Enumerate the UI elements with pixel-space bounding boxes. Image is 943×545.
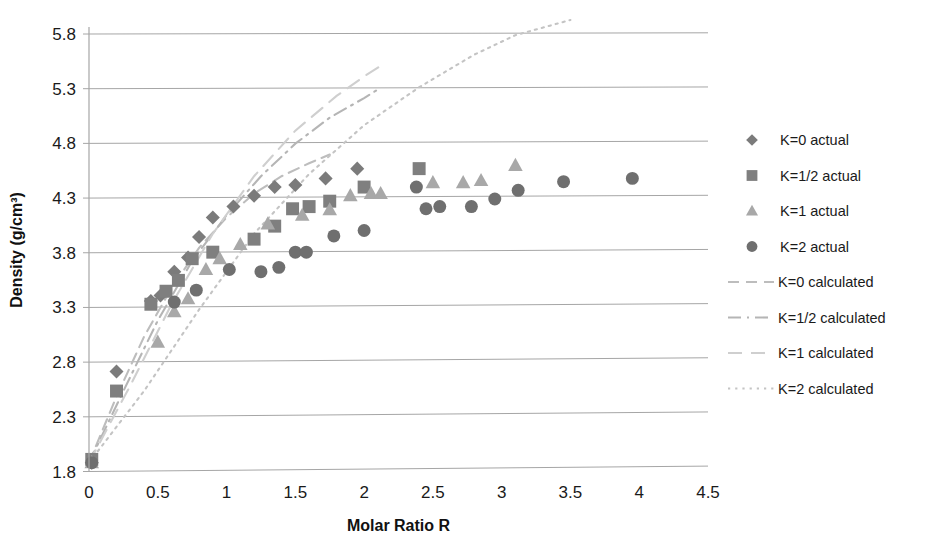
data-point-k-2-actual [85,456,98,469]
legend-item-k-2-calculated[interactable]: K=2 calculated [728,381,874,397]
gridline-y-5.8 [89,33,708,34]
gridline-y-4.3 [89,195,708,198]
data-point-k-1-2-actual [303,200,316,213]
legend-marker-square-icon [747,170,758,181]
data-point-k-2-actual [465,200,478,213]
data-point-k-1-2-actual [413,162,426,175]
gridline-y-5.3 [89,87,708,89]
y-tick-label-3.8: 3.8 [52,244,76,263]
y-tick-label-2.8: 2.8 [52,353,76,372]
x-tick-label-0.5: 0.5 [146,483,170,502]
legend-label: K=2 actual [780,239,849,255]
curve-k-1-calculated [89,63,385,462]
legend-label: K=1/2 calculated [778,310,886,326]
legend-label: K=2 calculated [778,381,874,397]
gridline-y-1.8 [89,466,708,471]
legend-item-k-1-2-actual[interactable]: K=1/2 actual [747,168,861,184]
gridline-y-4.8 [89,141,708,143]
data-point-k-2-actual [557,175,570,188]
legend-label: K=0 calculated [778,274,874,290]
y-tick-label-2.3: 2.3 [52,408,76,427]
data-point-k-0-actual [206,210,220,224]
data-point-k-1-actual [199,262,214,275]
data-point-k-1-actual [373,186,388,199]
gridline-y-2.8 [89,358,708,362]
data-point-k-0-actual [350,162,364,176]
x-tick-label-0: 0 [84,483,93,502]
legend-marker-triangle-icon [746,205,758,216]
legend-item-k-1-actual[interactable]: K=1 actual [746,203,849,219]
legend-label: K=1 actual [780,203,849,219]
legend-item-k-1-calculated[interactable]: K=1 calculated [728,345,874,361]
data-point-k-1-2-actual [144,298,157,311]
data-point-k-1-2-actual [248,233,261,246]
x-tick-label-4: 4 [634,483,643,502]
x-tick-label-4.5: 4.5 [696,483,720,502]
legend-marker-diamond-icon [746,134,758,146]
data-point-k-1-2-actual [160,285,173,298]
gridline-y-3.8 [89,249,708,252]
y-tick-label-4.8: 4.8 [52,134,76,153]
data-point-k-2-actual [358,224,371,237]
data-point-k-2-actual [272,261,285,274]
x-tick-label-1: 1 [222,483,231,502]
series-k-1-2-actual [85,162,425,466]
data-point-k-2-actual [223,263,236,276]
x-tick-label-2.5: 2.5 [421,483,445,502]
curve-k-2-calculated [89,20,570,463]
data-point-k-2-actual [410,181,423,194]
data-point-k-0-actual [268,180,282,194]
x-axis-title: Molar Ratio R [347,517,451,534]
data-point-k-1-actual [508,158,523,171]
legend-item-k-2-actual[interactable]: K=2 actual [747,239,849,255]
data-point-k-1-actual [456,175,471,188]
y-tick-label-1.8: 1.8 [52,463,76,482]
legend-label: K=1 calculated [778,345,874,361]
data-point-k-2-actual [420,202,433,215]
x-tick-label-3.5: 3.5 [559,483,583,502]
data-point-k-2-actual [190,284,203,297]
data-point-k-1-actual [343,188,358,201]
data-point-k-2-actual [433,200,446,213]
x-tick-label-3: 3 [497,483,506,502]
data-point-k-2-actual [626,172,639,185]
data-point-k-2-actual [327,229,340,242]
data-point-k-2-actual [488,193,501,206]
series-k-0-actual [85,162,365,470]
data-point-k-0-actual [109,365,123,379]
y-tick-label-3.3: 3.3 [52,298,76,317]
legend-item-k-1-2-calculated[interactable]: K=1/2 calculated [728,310,886,326]
legend-item-k-0-actual[interactable]: K=0 actual [746,132,849,148]
density-vs-molar-ratio-chart: 1.82.32.83.33.84.34.85.35.800.511.522.53… [0,0,943,545]
chart-container: 1.82.32.83.33.84.34.85.35.800.511.522.53… [0,0,943,545]
data-point-k-0-actual [288,178,302,192]
data-point-k-2-actual [512,184,525,197]
data-point-k-2-actual [168,296,181,309]
data-point-k-1-actual [474,173,489,186]
data-point-k-1-2-actual [186,252,199,265]
data-point-k-1-2-actual [172,274,185,287]
y-tick-label-5.8: 5.8 [52,25,76,44]
axes: 1.82.32.83.33.84.34.85.35.800.511.522.53… [8,25,720,534]
gridlines [83,33,708,472]
y-tick-label-5.3: 5.3 [52,80,76,99]
legend-label: K=0 actual [780,132,849,148]
gridline-y-2.3 [89,412,708,417]
y-tick-label-4.3: 4.3 [52,189,76,208]
data-point-k-1-2-actual [286,202,299,215]
curve-k-1-2-calculated [89,89,378,462]
data-point-k-0-actual [319,171,333,185]
legend-item-k-0-calculated[interactable]: K=0 calculated [728,274,874,290]
y-axis-title: Density (g/cm³) [8,192,25,308]
legend-label: K=1/2 actual [780,168,861,184]
x-tick-label-2: 2 [359,483,368,502]
data-point-k-1-actual [233,237,248,250]
data-point-k-0-actual [192,230,206,244]
data-point-k-2-actual [300,246,313,259]
series-k-2-actual [85,172,639,469]
calculated-curves [89,20,570,463]
data-point-k-2-actual [254,265,267,278]
data-point-k-1-2-actual [110,385,123,398]
x-tick-label-1.5: 1.5 [284,483,308,502]
legend-marker-circle-icon [747,241,758,252]
